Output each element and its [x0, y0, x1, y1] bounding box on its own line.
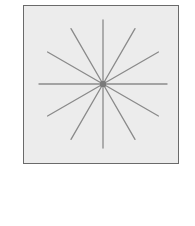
ray-line	[48, 52, 103, 84]
diagram-frame	[23, 5, 179, 164]
ray-line	[103, 84, 158, 116]
center-hub	[100, 81, 106, 87]
ray-line	[103, 52, 158, 84]
ray-line	[71, 29, 103, 84]
ray-line	[103, 84, 135, 139]
ray-line	[103, 29, 135, 84]
radial-star-diagram	[24, 6, 180, 165]
ray-line	[71, 84, 103, 139]
ray-line	[48, 84, 103, 116]
